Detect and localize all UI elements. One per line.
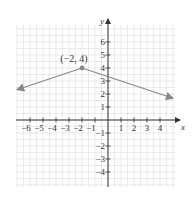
- y-tick-label: 5: [101, 50, 106, 60]
- absolute-value-graph: −6−5−4−3−2−11234 −4−3−2−1123456 x y (−2,…: [0, 0, 196, 204]
- x-tick-label: −1: [86, 123, 96, 133]
- y-axis-label: y: [99, 16, 104, 26]
- y-tick-label: 4: [101, 63, 106, 73]
- x-tick-label: −5: [34, 123, 44, 133]
- x-tick-label: 1: [119, 123, 124, 133]
- x-tick-label: −3: [60, 123, 70, 133]
- y-tick-label: −4: [95, 167, 105, 177]
- y-tick-label: −2: [95, 141, 105, 151]
- x-tick-label: −4: [47, 123, 57, 133]
- x-tick-label: 2: [132, 123, 137, 133]
- vertex-point: [80, 66, 85, 71]
- y-tick-label: 2: [101, 89, 106, 99]
- y-tick-label: −1: [95, 128, 105, 138]
- x-tick-label: 4: [158, 123, 163, 133]
- x-tick-label: 3: [145, 123, 150, 133]
- vertex-label: (−2, 4): [60, 53, 87, 65]
- x-axis-label: x: [180, 122, 185, 132]
- y-tick-label: 3: [101, 76, 106, 86]
- y-tick-label: −3: [95, 154, 105, 164]
- x-tick-label: −2: [73, 123, 83, 133]
- x-tick-label: −6: [21, 123, 31, 133]
- y-tick-label: 6: [101, 37, 106, 47]
- y-tick-label: 1: [101, 102, 106, 112]
